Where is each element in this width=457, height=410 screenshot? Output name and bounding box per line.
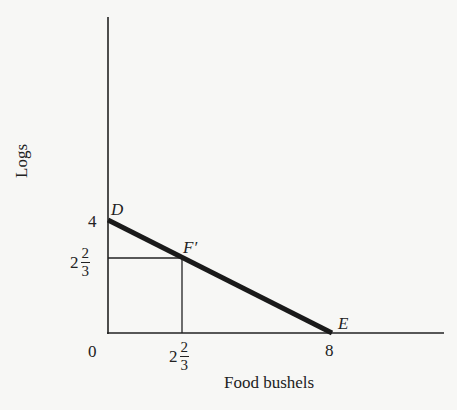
- point-e-label: E: [338, 315, 348, 332]
- y-tick-denominator: 3: [82, 263, 90, 279]
- y-tick-numerator: 2: [81, 246, 91, 263]
- x-tick-numerator: 2: [180, 340, 190, 357]
- x-tick-denominator: 3: [181, 357, 189, 373]
- y-tick-whole: 2: [70, 253, 79, 273]
- origin-label: 0: [88, 343, 97, 360]
- x-tick-whole: 2: [169, 347, 178, 367]
- y-tick-fraction: 2 3: [81, 246, 91, 279]
- ppf-line-de: [108, 220, 332, 333]
- x-axis-label: Food bushels: [224, 374, 314, 391]
- x-tick-fraction: 2 3: [180, 340, 190, 373]
- x-tick-8: 8: [325, 342, 334, 359]
- y-axis-label: Logs: [12, 144, 32, 178]
- point-d-label: D: [111, 201, 123, 218]
- y-tick-2-2-3: 2 2 3: [70, 246, 90, 279]
- x-tick-2-2-3: 2 2 3: [169, 340, 189, 373]
- y-tick-4: 4: [88, 213, 97, 230]
- point-f-prime-label: F′: [183, 239, 197, 256]
- chart-canvas: [0, 0, 457, 410]
